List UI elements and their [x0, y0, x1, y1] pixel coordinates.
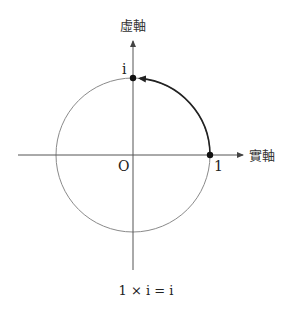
real-axis-label: 實軸: [249, 148, 275, 163]
one-label: 1: [214, 158, 223, 174]
origin-label: O: [118, 158, 129, 174]
point-one: [207, 152, 213, 158]
caption: 1 × i = i: [119, 283, 174, 298]
rotation-arc: [140, 78, 210, 155]
point-i: [130, 75, 136, 81]
i-label: i: [122, 61, 127, 77]
imaginary-axis-label: 虛軸: [120, 18, 146, 33]
complex-plane-diagram: 虛軸 實軸 O 1 i 1 × i = i: [0, 0, 292, 310]
